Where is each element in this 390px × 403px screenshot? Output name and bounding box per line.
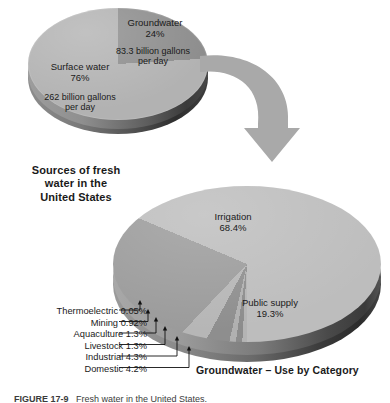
figure-caption: FIGURE 17-9 Fresh water in the United St… [14, 394, 386, 403]
figure-caption-number: FIGURE 17-9 [14, 394, 69, 403]
leader-label-mining: Mining 0.92% [0, 318, 152, 330]
leader-label-domestic: Domestic 4.2% [0, 364, 152, 376]
figure-canvas: Groundwater24% 83.3 billion gallonsper d… [0, 0, 390, 403]
figure-caption-text [69, 394, 77, 403]
leader-label-thermoelectric: Thermoelectric 0.05% [0, 306, 152, 318]
leader-label-industrial: Industrial 4.3% [0, 352, 152, 364]
leader-label-livestock: Livestock 1.3% [0, 341, 152, 353]
leader-label-aquaculture: Aquaculture 1.3% [0, 329, 152, 341]
leader-label-list: Thermoelectric 0.05% Mining 0.92% Aquacu… [0, 306, 152, 376]
chart-title-groundwater-use-by-category: Groundwater – Use by Category [196, 365, 386, 377]
